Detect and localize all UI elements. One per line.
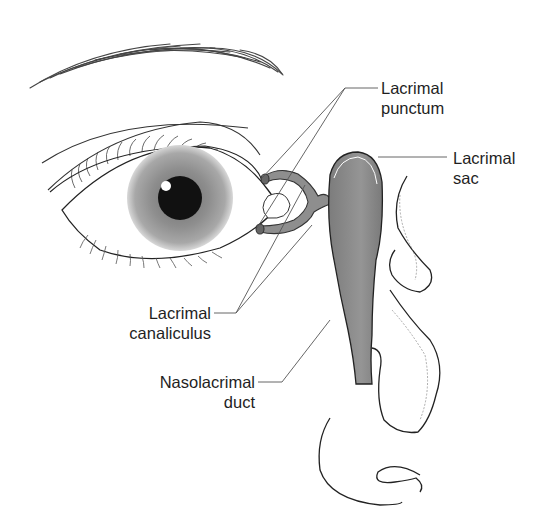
label-line: Lacrimal <box>381 78 444 98</box>
nasal-conchae-inner <box>392 195 428 420</box>
label-line: Nasolacrimal <box>138 372 255 392</box>
label-line: punctum <box>381 98 444 118</box>
pupil-highlight <box>161 181 171 191</box>
label-line: canaliculus <box>108 323 211 343</box>
label-lacrimal-sac: Lacrimal sac <box>453 148 515 188</box>
label-line: Lacrimal <box>108 303 211 323</box>
label-line: Lacrimal <box>453 148 515 168</box>
label-nasolacrimal-duct: Nasolacrimal duct <box>138 372 255 412</box>
label-lacrimal-canaliculus: Lacrimal canaliculus <box>108 303 211 343</box>
lacrimal-diagram: Lacrimal punctum Lacrimal sac Lacrimal c… <box>0 0 555 532</box>
anatomy-illustration <box>0 0 555 532</box>
label-line: duct <box>138 392 255 412</box>
eyebrow <box>30 44 283 88</box>
label-line: sac <box>453 168 515 188</box>
label-lacrimal-punctum: Lacrimal punctum <box>381 78 444 118</box>
